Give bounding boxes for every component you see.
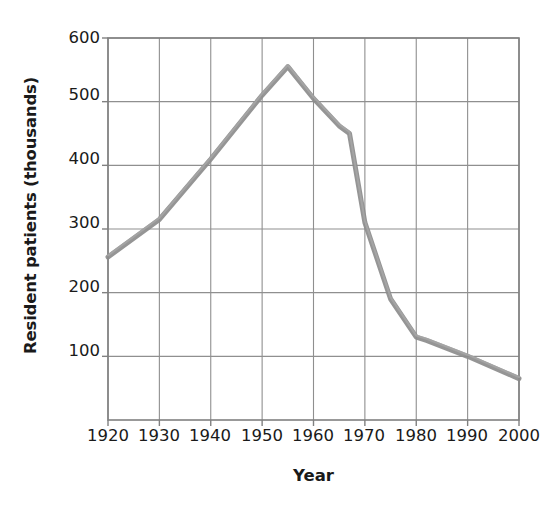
plot-svg [0,0,551,507]
chart-figure: Resident patients (thousands) Year 600 5… [0,0,551,507]
